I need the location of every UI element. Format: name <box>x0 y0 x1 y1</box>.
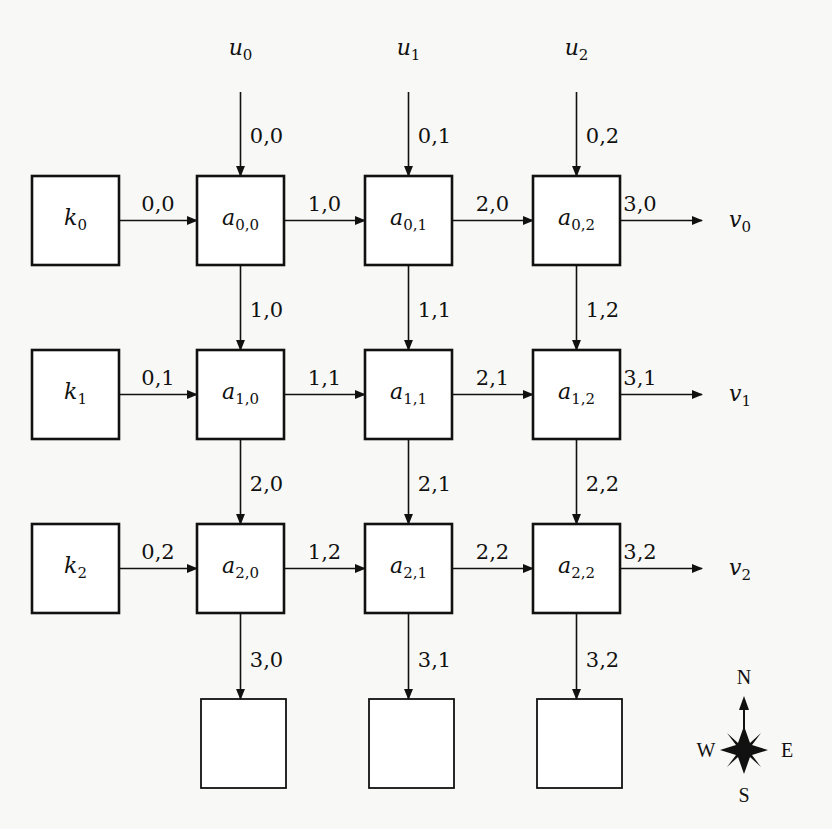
edge-label-v-1-2: 2,2 <box>586 472 619 496</box>
edge-label-h-2-1: 2,2 <box>476 540 509 564</box>
systolic-array-diagram: u00,0u10,1u20,2k00,0a0,01,01,0a0,12,01,1… <box>0 0 832 829</box>
edge-label-h-2-0: 1,2 <box>308 540 341 564</box>
edge-label-v-1-0: 2,0 <box>250 472 283 496</box>
edge-label-left-2: 0,2 <box>141 540 174 564</box>
output-v0-label: v0 <box>729 207 751 236</box>
edge-label-v-0-0: 1,0 <box>250 298 283 322</box>
input-u-1-label: u1 <box>397 35 421 64</box>
edge-label-left-0: 0,0 <box>141 192 174 216</box>
edge-label-h-1-1: 2,1 <box>476 366 509 390</box>
edge-label-top-1: 0,1 <box>418 124 451 148</box>
bottom-box-2 <box>537 699 622 788</box>
edge-label-right-1: 3,1 <box>623 366 656 390</box>
bottom-box-1 <box>369 699 454 788</box>
edge-label-v-1-1: 2,1 <box>418 472 451 496</box>
compass-west-label: W <box>697 739 716 761</box>
output-v2-label: v2 <box>729 555 751 584</box>
edge-label-bottom-1: 3,1 <box>418 648 451 672</box>
edge-label-top-2: 0,2 <box>586 124 619 148</box>
input-u-0-label: u0 <box>229 35 253 64</box>
edge-label-right-0: 3,0 <box>623 192 656 216</box>
edge-label-v-0-1: 1,1 <box>418 298 451 322</box>
edge-label-h-1-0: 1,1 <box>308 366 341 390</box>
output-v1-label: v1 <box>729 381 751 410</box>
edge-label-h-0-1: 2,0 <box>476 192 509 216</box>
compass-south-label: S <box>738 784 749 806</box>
compass-east-label: E <box>781 739 793 761</box>
compass-rose-icon: N S W E <box>697 666 794 806</box>
compass-north-label: N <box>737 666 751 688</box>
edge-label-v-0-2: 1,2 <box>586 298 619 322</box>
edge-label-bottom-2: 3,2 <box>586 648 619 672</box>
edge-label-h-0-0: 1,0 <box>308 192 341 216</box>
edge-label-bottom-0: 3,0 <box>250 648 283 672</box>
input-u-2-label: u2 <box>565 35 589 64</box>
edge-label-top-0: 0,0 <box>250 124 283 148</box>
edge-label-left-1: 0,1 <box>141 366 174 390</box>
edge-label-right-2: 3,2 <box>623 540 656 564</box>
bottom-box-0 <box>201 699 286 788</box>
